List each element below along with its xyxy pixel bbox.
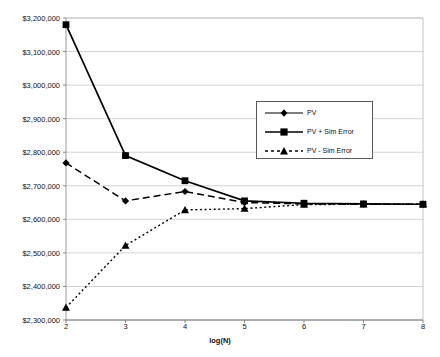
plot-area — [0, 0, 440, 357]
data-point-1-0 — [63, 21, 70, 28]
legend-label-pv-minus-sim-error: PV - Sim Error — [307, 147, 352, 154]
data-point-2-0 — [62, 304, 70, 311]
legend-item-pv-plus-sim-error: PV + Sim Error — [257, 122, 374, 141]
legend-swatch-pv-minus-sim-error — [263, 144, 305, 158]
data-point-1-2 — [182, 177, 189, 184]
legend-label-pv-plus-sim-error: PV + Sim Error — [307, 128, 354, 135]
data-point-1-1 — [122, 152, 129, 159]
data-point-1-3 — [241, 197, 248, 204]
legend-item-pv: PV — [257, 103, 374, 122]
legend-item-pv-minus-sim-error: PV - Sim Error — [257, 141, 374, 160]
line-chart: Value log(N) $2,300,000$2,400,000$2,500,… — [0, 0, 440, 357]
legend-swatch-pv — [263, 106, 305, 120]
data-point-2-1 — [122, 242, 130, 249]
data-point-0-0 — [62, 159, 69, 166]
chart-legend: PV PV + Sim Error PV - Sim Error — [256, 101, 373, 159]
legend-swatch-pv-plus-sim-error — [263, 125, 305, 139]
data-point-0-2 — [181, 188, 188, 195]
data-point-0-1 — [122, 197, 129, 204]
legend-label-pv: PV — [307, 109, 316, 116]
